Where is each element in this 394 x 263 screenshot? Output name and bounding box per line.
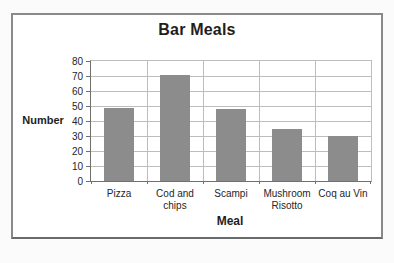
chart-frame: Bar Meals Number 01020304050607080PizzaC…: [11, 13, 383, 239]
x-tick: [91, 181, 92, 184]
x-tick: [315, 181, 316, 184]
y-axis-title: Number: [17, 114, 69, 126]
gridline-vertical: [259, 61, 260, 181]
y-tick: [86, 91, 91, 92]
y-tick-label: 10: [72, 161, 83, 172]
y-tick-label: 40: [72, 116, 83, 127]
bar: [160, 75, 190, 182]
y-tick-label: 0: [77, 176, 83, 187]
bar: [272, 129, 302, 182]
bar: [216, 109, 246, 181]
y-tick-label: 70: [72, 71, 83, 82]
y-tick-label: 30: [72, 131, 83, 142]
y-tick: [86, 166, 91, 167]
plot-area: 01020304050607080PizzaCod and chipsScamp…: [90, 60, 372, 182]
gridline: [91, 76, 371, 77]
gridline: [91, 91, 371, 92]
y-tick-label: 20: [72, 146, 83, 157]
x-tick-label: Pizza: [89, 188, 149, 200]
bar: [104, 108, 134, 182]
y-tick: [86, 121, 91, 122]
y-tick: [86, 106, 91, 107]
x-tick-label: Cod and chips: [145, 188, 205, 212]
y-tick: [86, 151, 91, 152]
chart-title: Bar Meals: [13, 21, 381, 39]
x-tick: [259, 181, 260, 184]
x-tick: [147, 181, 148, 184]
y-tick: [86, 61, 91, 62]
scanned-chart-page: Bar Meals Number 01020304050607080PizzaC…: [0, 0, 394, 263]
x-tick-label: Scampi: [201, 188, 261, 200]
x-axis-title: Meal: [90, 214, 370, 228]
gridline-vertical: [315, 61, 316, 181]
bar: [328, 136, 358, 181]
y-tick: [86, 136, 91, 137]
x-tick-label: Mushroom Risotto: [257, 188, 317, 212]
y-tick-label: 50: [72, 101, 83, 112]
x-tick: [203, 181, 204, 184]
x-tick: [370, 181, 371, 184]
gridline-vertical: [147, 61, 148, 181]
gridline-vertical: [203, 61, 204, 181]
y-tick-label: 60: [72, 86, 83, 97]
x-tick-label: Coq au Vin: [313, 188, 373, 200]
y-tick: [86, 76, 91, 77]
y-tick-label: 80: [72, 56, 83, 67]
